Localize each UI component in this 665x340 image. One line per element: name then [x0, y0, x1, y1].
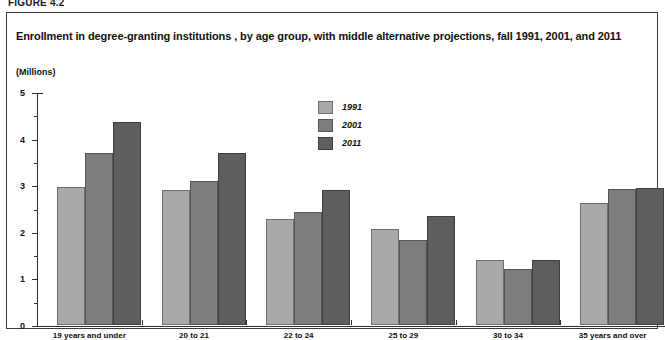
x-axis-category-label: 19 years and under [53, 331, 126, 340]
y-tick-label: 5 [20, 89, 25, 98]
x-axis-category-label: 30 to 34 [493, 331, 523, 340]
x-axis-category-label: 25 to 29 [388, 331, 418, 340]
y-tick-major: 2 [32, 233, 37, 234]
bar[interactable] [532, 260, 560, 325]
chart-title: Enrollment in degree-granting institutio… [16, 30, 621, 42]
x-axis-group-separator [560, 320, 561, 325]
x-axis-category-label: 22 to 24 [284, 331, 314, 340]
y-axis-line [37, 93, 38, 327]
bar[interactable] [294, 212, 322, 325]
y-tick-major: 3 [32, 186, 37, 187]
y-tick-major: 0 [32, 326, 37, 327]
bar[interactable] [636, 188, 664, 325]
bar[interactable] [399, 240, 427, 325]
bar-group [580, 92, 664, 325]
x-axis-group-separator [351, 320, 352, 325]
y-tick-label: 3 [20, 182, 25, 191]
y-tick-label: 4 [20, 135, 25, 144]
x-axis-category-label: 20 to 21 [179, 331, 209, 340]
plot-area: 012345 19 years and under20 to 2122 to 2… [37, 93, 665, 326]
y-tick-label: 2 [20, 228, 25, 237]
x-axis-group-separator [456, 320, 457, 325]
y-tick-label: 1 [20, 275, 25, 284]
y-axis-unit-label: (Millions) [16, 67, 56, 77]
y-tick-major: 1 [32, 279, 37, 280]
y-tick-minor [34, 116, 37, 117]
bar[interactable] [162, 190, 190, 325]
x-axis-group-separator [142, 320, 143, 325]
bar[interactable] [218, 153, 246, 325]
bar[interactable] [190, 181, 218, 325]
bar[interactable] [113, 122, 141, 325]
y-tick-minor [34, 163, 37, 164]
y-tick-minor [34, 210, 37, 211]
bar-group [266, 92, 350, 325]
bar[interactable] [371, 229, 399, 325]
bar[interactable] [476, 260, 504, 325]
bar-group [162, 92, 246, 325]
figure-panel: Enrollment in degree-granting institutio… [6, 12, 658, 329]
figure-number-label: FIGURE 4.2 [8, 0, 64, 9]
bar[interactable] [608, 189, 636, 325]
bar[interactable] [57, 187, 85, 325]
y-tick-minor [34, 256, 37, 257]
y-tick-minor [34, 303, 37, 304]
y-tick-major: 4 [32, 140, 37, 141]
x-axis-category-label: 35 years and over [579, 331, 647, 340]
bar-group [57, 92, 141, 325]
y-axis-top-cap [37, 93, 43, 94]
y-tick-major: 5 [32, 93, 37, 94]
y-tick-label: 0 [20, 322, 25, 331]
bar[interactable] [322, 190, 350, 325]
bar[interactable] [85, 153, 113, 325]
bar[interactable] [580, 203, 608, 325]
bar[interactable] [427, 216, 455, 325]
x-axis-group-separator [246, 320, 247, 325]
x-axis-line [37, 326, 665, 327]
bar-group [476, 92, 560, 325]
bar-group [371, 92, 455, 325]
bar[interactable] [266, 219, 294, 325]
bar[interactable] [504, 269, 532, 325]
